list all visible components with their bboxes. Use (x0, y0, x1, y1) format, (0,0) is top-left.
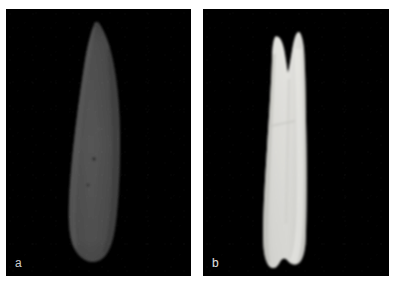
panel-b: b (203, 9, 389, 276)
specimen-a-image (6, 9, 191, 276)
specimen-a-container (6, 9, 191, 276)
specimen-b-container (203, 9, 389, 276)
specimen-b-shading (258, 27, 313, 276)
panel-b-label: b (212, 257, 219, 269)
panel-a: a (6, 9, 191, 276)
specimen-a-shading (66, 19, 124, 269)
figure-root: a (0, 0, 396, 289)
panel-a-label: a (15, 257, 22, 269)
specimen-b-image (203, 9, 389, 276)
